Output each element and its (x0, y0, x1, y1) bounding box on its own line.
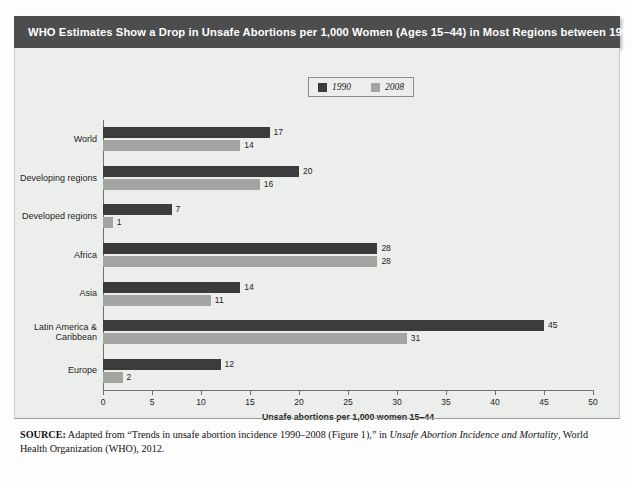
bar-1990[interactable] (103, 282, 240, 293)
chart-panel: 1990 2008 Unsafe abortions per 1,000 wom… (14, 48, 620, 418)
x-axis-tick (495, 390, 496, 395)
x-axis-tick-label: 5 (150, 397, 155, 407)
category-label: Asia (0, 288, 97, 299)
category-label: World (0, 134, 97, 145)
legend-label-1990: 1990 (332, 82, 351, 92)
bar-1990[interactable] (103, 204, 172, 215)
x-axis-tick-label: 50 (588, 397, 597, 407)
bar-2008[interactable] (103, 256, 377, 267)
bar-value-label: 31 (411, 333, 420, 344)
bar-2008[interactable] (103, 295, 211, 306)
bar-value-label: 20 (303, 166, 312, 177)
category-label: Europe (0, 365, 97, 376)
x-axis-tick (593, 390, 594, 395)
x-axis-tick (152, 390, 153, 395)
category-label: Latin America & Caribbean (0, 322, 97, 343)
x-axis-tick-label: 10 (196, 397, 205, 407)
bar-value-label: 28 (381, 243, 390, 254)
x-axis-tick-label: 30 (392, 397, 401, 407)
x-axis-tick (544, 390, 545, 395)
legend-item-1990[interactable]: 1990 (318, 82, 351, 92)
source-note: SOURCE: Adapted from “Trends in unsafe a… (20, 428, 610, 456)
x-axis-tick-label: 25 (343, 397, 352, 407)
bar-value-label: 17 (274, 127, 283, 138)
chart-row: Asia1411 (103, 274, 593, 313)
x-axis-tick-label: 40 (490, 397, 499, 407)
bar-value-label: 2 (127, 372, 132, 383)
x-axis-tick (397, 390, 398, 395)
plot-area: Unsafe abortions per 1,000 women 15–44 0… (103, 120, 593, 390)
bar-value-label: 12 (225, 359, 234, 370)
legend-label-2008: 2008 (385, 82, 404, 92)
x-axis-title: Unsafe abortions per 1,000 women 15–44 (103, 412, 593, 422)
x-axis-tick (446, 390, 447, 395)
bar-value-label: 14 (244, 282, 253, 293)
legend-swatch-1990 (318, 83, 327, 92)
chart-row: World1714 (103, 120, 593, 159)
x-axis-tick-label: 45 (539, 397, 548, 407)
chart-row: Developing regions2016 (103, 159, 593, 198)
chart-row: Europe122 (103, 351, 593, 390)
chart-row: Developed regions71 (103, 197, 593, 236)
category-label: Africa (0, 250, 97, 261)
legend-item-2008[interactable]: 2008 (371, 82, 404, 92)
chart-legend: 1990 2008 (308, 77, 414, 97)
bar-value-label: 16 (264, 179, 273, 190)
x-axis-tick-label: 20 (294, 397, 303, 407)
chart-title-banner: WHO Estimates Show a Drop in Unsafe Abor… (14, 16, 620, 48)
x-axis-tick (103, 390, 104, 395)
source-divider (14, 418, 620, 419)
bar-2008[interactable] (103, 217, 113, 228)
bar-1990[interactable] (103, 320, 544, 331)
figure-container: WHO Estimates Show a Drop in Unsafe Abor… (0, 0, 632, 488)
category-label: Developed regions (0, 211, 97, 222)
source-publication-title: Unsafe Abortion Incidence and Mortality (389, 429, 557, 440)
bar-2008[interactable] (103, 140, 240, 151)
bar-1990[interactable] (103, 127, 270, 138)
chart-row: Africa2828 (103, 236, 593, 275)
bar-1990[interactable] (103, 243, 377, 254)
bar-value-label: 28 (381, 256, 390, 267)
bar-2008[interactable] (103, 372, 123, 383)
bar-value-label: 1 (117, 217, 122, 228)
bar-value-label: 14 (244, 140, 253, 151)
chart-row: Latin America & Caribbean4531 (103, 313, 593, 352)
legend-swatch-2008 (371, 83, 380, 92)
x-axis-tick-label: 0 (101, 397, 106, 407)
x-axis-tick-label: 15 (245, 397, 254, 407)
x-axis-tick-label: 35 (441, 397, 450, 407)
category-label: Developing regions (0, 173, 97, 184)
x-axis-tick (201, 390, 202, 395)
bar-value-label: 45 (548, 320, 557, 331)
bar-1990[interactable] (103, 166, 299, 177)
bar-2008[interactable] (103, 333, 407, 344)
bar-1990[interactable] (103, 359, 221, 370)
source-prefix: SOURCE: (20, 429, 66, 440)
bar-value-label: 11 (215, 295, 224, 306)
x-axis-tick (348, 390, 349, 395)
page-title: WHO Estimates Show a Drop in Unsafe Abor… (14, 26, 632, 38)
source-text-1: Adapted from “Trends in unsafe abortion … (66, 429, 390, 440)
x-axis-tick (250, 390, 251, 395)
bar-value-label: 7 (176, 204, 181, 215)
bar-2008[interactable] (103, 179, 260, 190)
x-axis-tick (299, 390, 300, 395)
